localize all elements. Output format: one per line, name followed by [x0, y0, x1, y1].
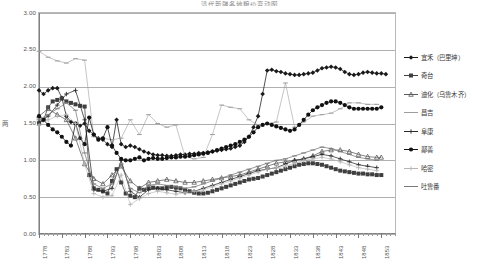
x-tick [89, 233, 90, 236]
legend-item-4[interactable]: 阜康 [404, 122, 478, 141]
data-point [288, 72, 293, 77]
chart-page: 清代新疆各地粮价变动图 0.000.501.001.502.002.503.00… [0, 0, 478, 261]
data-point [174, 155, 178, 159]
x-tick [372, 233, 373, 236]
data-point [283, 71, 288, 76]
x-tick [158, 233, 159, 236]
data-point [82, 118, 86, 122]
legend-item-3[interactable]: 昌吉 [404, 104, 478, 123]
data-point [119, 173, 123, 177]
x-tick-label: 1788 [87, 246, 93, 259]
data-point [165, 191, 169, 195]
data-point [55, 98, 59, 102]
data-point [133, 145, 138, 150]
x-tick [98, 233, 99, 236]
data-point [133, 157, 137, 161]
x-tick [377, 233, 378, 236]
x-tick [190, 233, 191, 236]
data-point [69, 101, 73, 105]
legend-item-0[interactable]: 宜禾（巴里坤） [404, 48, 478, 67]
data-point [352, 171, 356, 175]
data-point [183, 155, 187, 159]
data-point [224, 145, 228, 149]
x-tick [295, 233, 296, 236]
data-point [92, 132, 96, 136]
legend-item-6[interactable]: 哈密 [404, 159, 478, 178]
data-point [311, 108, 315, 112]
data-point [137, 155, 141, 159]
x-tick [267, 233, 268, 238]
data-point [251, 130, 255, 134]
legend-item-5[interactable]: 鄯善 [404, 141, 478, 160]
x-tick [44, 233, 45, 236]
x-tick-label: 1778 [42, 246, 48, 259]
x-tick [363, 233, 364, 236]
data-point [101, 195, 105, 199]
x-tick-label: 1848 [361, 246, 367, 259]
data-point [37, 114, 41, 118]
data-point [114, 118, 119, 123]
data-point [261, 175, 265, 179]
data-point [379, 105, 383, 109]
legend-item-7[interactable]: 吐鲁番 [404, 178, 478, 197]
data-point [301, 72, 306, 77]
data-point [169, 155, 173, 159]
data-point [374, 71, 379, 76]
data-point [375, 173, 379, 177]
x-tick [194, 233, 195, 236]
x-tick [331, 233, 332, 236]
data-point [338, 160, 342, 164]
legend-marker-icon [404, 164, 418, 173]
x-tick [304, 233, 305, 236]
x-tick [272, 233, 273, 236]
legend-item-2[interactable]: 迪化（乌鲁木齐） [404, 85, 478, 104]
chart-title: 清代新疆各地粮价变动图 [0, 0, 478, 6]
data-point [279, 126, 283, 130]
x-tick [171, 233, 172, 236]
data-point [238, 180, 242, 184]
data-point [366, 107, 370, 111]
data-point [379, 71, 384, 76]
data-point [215, 188, 219, 192]
data-point [361, 107, 365, 111]
x-tick [94, 233, 95, 236]
data-point [315, 68, 320, 73]
data-point [210, 149, 214, 153]
data-point [215, 148, 219, 152]
legend-marker-icon [404, 90, 418, 99]
x-axis-labels: 1778178317881793179818031808181318181823… [39, 239, 395, 261]
legend-marker-glyph [404, 108, 418, 117]
data-point [288, 129, 292, 133]
data-point [160, 186, 164, 190]
data-point [174, 186, 178, 190]
x-tick [222, 233, 223, 238]
legend-item-1[interactable]: 奇台 [404, 67, 478, 86]
data-point [334, 167, 338, 171]
data-point [274, 124, 278, 128]
data-point [55, 86, 60, 91]
x-tick [299, 233, 300, 236]
x-tick [381, 233, 382, 238]
data-point [329, 64, 334, 69]
x-tick [345, 233, 346, 236]
data-point [365, 70, 370, 75]
x-tick [390, 233, 391, 236]
y-tick-label: 2.50 [24, 45, 36, 52]
x-tick [290, 233, 291, 238]
data-point [55, 130, 59, 134]
x-tick [80, 233, 81, 236]
x-tick [386, 233, 387, 236]
data-point [311, 161, 315, 165]
data-point [356, 166, 360, 170]
data-point [297, 163, 301, 167]
data-point [292, 73, 297, 78]
data-point [288, 166, 292, 170]
data-point [409, 148, 413, 152]
data-point [356, 107, 360, 111]
x-tick [48, 233, 49, 236]
data-point [233, 142, 237, 146]
legend-marker-icon [404, 145, 418, 154]
data-point [128, 158, 132, 162]
data-point [325, 164, 329, 168]
x-tick [354, 233, 355, 236]
